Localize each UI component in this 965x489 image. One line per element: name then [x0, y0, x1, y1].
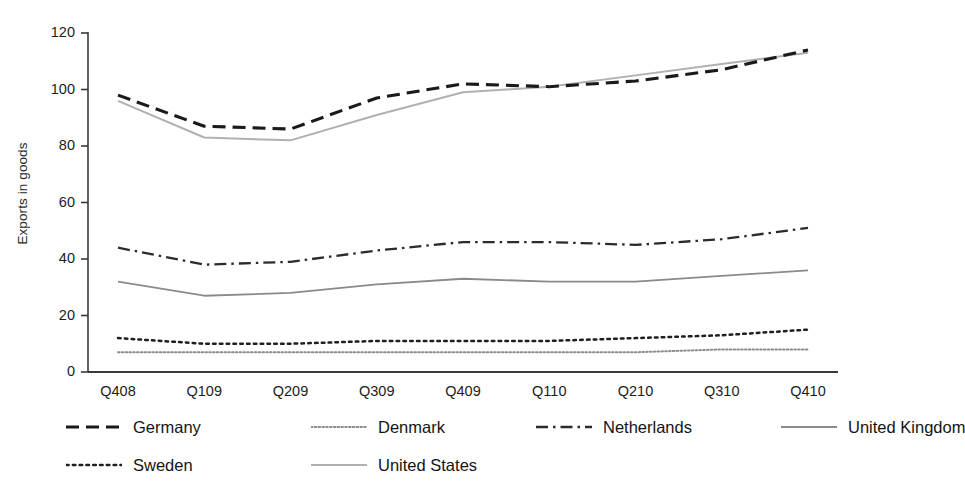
series-line-sweden: [118, 330, 808, 344]
legend-item-united-states[interactable]: United States: [311, 448, 477, 482]
y-axis-tick-label: 100: [29, 81, 75, 97]
legend-line-swatch-icon: [66, 419, 122, 435]
legend-line-swatch-icon: [311, 457, 367, 473]
x-axis-tick-label: Q109: [159, 383, 249, 399]
y-axis-tick-label: 60: [29, 194, 75, 210]
x-axis-tick-label: Q209: [246, 383, 336, 399]
y-axis-title: Exports in goods: [15, 84, 30, 304]
y-axis-tick-label: 0: [29, 363, 75, 379]
series-line-denmark: [118, 349, 808, 352]
legend-item-label: United Kingdom: [848, 419, 965, 436]
series-line-united-kingdom: [118, 270, 808, 295]
legend-row: GermanyDenmarkNetherlandsUnited Kingdom: [66, 410, 836, 444]
x-axis-tick-label: Q309: [332, 383, 422, 399]
legend-line-swatch-icon: [781, 419, 837, 435]
legend-item-germany[interactable]: Germany: [66, 410, 201, 444]
x-axis-tick-label: Q110: [504, 383, 594, 399]
legend-item-sweden[interactable]: Sweden: [66, 448, 193, 482]
x-axis-tick-label: Q210: [591, 383, 681, 399]
legend-item-label: Denmark: [378, 419, 445, 436]
y-axis-tick-label: 120: [29, 24, 75, 40]
series-line-netherlands: [118, 228, 808, 265]
legend-item-label: Germany: [133, 419, 201, 436]
x-axis-tick-label: Q408: [73, 383, 163, 399]
legend-line-swatch-icon: [66, 457, 122, 473]
legend-item-denmark[interactable]: Denmark: [311, 410, 445, 444]
legend-line-swatch-icon: [311, 419, 367, 435]
y-axis-tick-label: 80: [29, 137, 75, 153]
x-axis-tick-label: Q410: [763, 383, 853, 399]
legend-item-netherlands[interactable]: Netherlands: [536, 410, 692, 444]
y-axis-tick-label: 40: [29, 250, 75, 266]
x-axis-tick-label: Q409: [418, 383, 508, 399]
chart-legend: GermanyDenmarkNetherlandsUnited Kingdom …: [66, 408, 836, 484]
x-axis-tick-label: Q310: [677, 383, 767, 399]
legend-item-label: United States: [378, 457, 477, 474]
legend-row: SwedenUnited States: [66, 448, 836, 482]
legend-item-united-kingdom[interactable]: United Kingdom: [781, 410, 965, 444]
legend-line-swatch-icon: [536, 419, 592, 435]
plot-area: Exports in goods 020406080100120 Q408Q10…: [0, 0, 847, 400]
legend-item-label: Netherlands: [603, 419, 692, 436]
legend-item-label: Sweden: [133, 457, 193, 474]
plot-canvas: [0, 0, 847, 400]
y-axis-tick-label: 20: [29, 307, 75, 323]
series-line-germany: [118, 50, 808, 129]
